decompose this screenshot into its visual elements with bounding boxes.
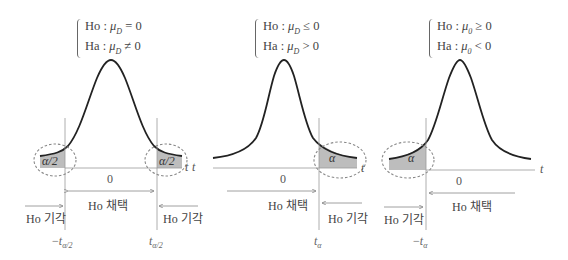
h0-relation: ≤ 0: [303, 19, 319, 33]
param-subscript: D: [294, 27, 300, 36]
param-subscript: D: [116, 46, 122, 55]
ha-relation: ≠ 0: [125, 39, 141, 53]
null-hypothesis: Ho : μ0 ≥ 0: [437, 19, 492, 39]
h0-relation: ≥ 0: [475, 19, 491, 33]
t-axis-label: t: [540, 162, 543, 177]
reject-right-label: Ho 기각: [163, 209, 203, 227]
alpha-half-right-label: α/2: [159, 154, 175, 169]
subscript: α/2: [62, 241, 72, 250]
hypothesis-box-two-tailed: Ho : μD = 0 Ha : μD ≠ 0: [77, 19, 142, 58]
zero-label: 0: [456, 174, 462, 189]
accept-region-label: Ho 채택: [268, 196, 308, 214]
alpha-label: α: [329, 151, 335, 166]
t-axis-label: t: [185, 160, 188, 175]
reject-left-label: Ho 기각: [26, 209, 66, 227]
subscript: α/2: [152, 241, 162, 250]
accept-region-label: Ho 채택: [88, 196, 128, 214]
minus-sign: −: [413, 234, 420, 248]
distribution-curve: [40, 60, 182, 156]
minus-sign: −: [52, 234, 59, 248]
t-axis-left-label: t: [192, 160, 195, 175]
critical-value: −tα: [413, 234, 427, 250]
hypothesis-box-right-tailed: Ho : μD ≤ 0 Ha : μD > 0: [255, 19, 319, 58]
alt-hypothesis: Ha : μ0 < 0: [437, 39, 492, 59]
accept-region-label: Ho 채택: [452, 197, 492, 215]
h0-relation: = 0: [125, 19, 141, 33]
right-tail-shade: [319, 143, 357, 168]
param-subscript: D: [294, 46, 300, 55]
param-subscript: D: [116, 27, 122, 36]
alt-hypothesis: Ha : μD ≠ 0: [85, 39, 142, 59]
t-axis-label: t: [361, 161, 364, 176]
alt-hypothesis: Ha : μD > 0: [263, 39, 319, 59]
h0-label: Ho: [263, 19, 278, 33]
ha-label: Ha: [263, 39, 278, 53]
h0-label: Ho: [437, 19, 452, 33]
critical-value: tα: [314, 234, 322, 250]
subscript: α: [317, 241, 321, 250]
alpha-half-left-label: α/2: [42, 154, 58, 169]
critical-value-right: tα/2: [149, 234, 163, 250]
distribution-curve: [213, 60, 357, 158]
param-subscript: 0: [468, 27, 472, 36]
alpha-label: α: [408, 151, 414, 166]
null-hypothesis: Ho : μD ≤ 0: [263, 19, 319, 39]
ha-relation: > 0: [303, 39, 319, 53]
distribution-curve: [389, 60, 531, 159]
subscript: α: [423, 241, 427, 250]
critical-value-left: −tα/2: [52, 234, 73, 250]
ha-relation: < 0: [475, 39, 491, 53]
reject-region-label: Ho 기각: [384, 210, 424, 228]
param-subscript: 0: [468, 46, 472, 55]
hypothesis-box-left-tailed: Ho : μ0 ≥ 0 Ha : μ0 < 0: [429, 19, 492, 58]
ha-label: Ha: [437, 39, 452, 53]
zero-label: 0: [107, 172, 113, 187]
reject-region-label: Ho 기각: [328, 209, 368, 227]
ha-label: Ha: [85, 39, 100, 53]
null-hypothesis: Ho : μD = 0: [85, 19, 142, 39]
h0-label: Ho: [85, 19, 100, 33]
zero-label: 0: [280, 172, 286, 187]
